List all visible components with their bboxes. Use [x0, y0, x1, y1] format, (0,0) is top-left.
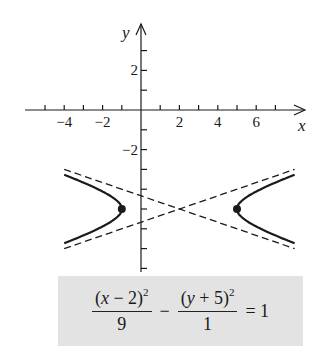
right-vertex: [233, 205, 241, 213]
fraction-y-numerator: (y + 5)2: [178, 288, 238, 312]
minus-sign: −: [160, 301, 170, 322]
hyperbola-left-branch: [64, 175, 122, 244]
x-axis-tick-labels: −4−2246: [56, 114, 260, 130]
x-tick-label: −4: [56, 114, 72, 130]
fraction-x-denominator: 9: [117, 312, 126, 335]
variable-x: x: [101, 288, 109, 308]
x-tick-label: 4: [214, 114, 222, 130]
x-tick-label: −2: [95, 114, 111, 130]
y-tick-label: −2: [122, 142, 138, 158]
x-axis-label: x: [297, 116, 306, 135]
fraction-x-numerator: (x − 2)2: [92, 288, 152, 312]
x-shift: − 2): [109, 288, 143, 308]
x-axis: −4−2246 x: [25, 105, 306, 135]
y-axis-label: y: [120, 23, 130, 42]
y-tick-label: 2: [131, 62, 139, 78]
x-tick-label: 2: [176, 114, 184, 130]
exponent: 2: [143, 286, 149, 298]
fraction-x-term: (x − 2)2 9: [92, 288, 152, 335]
fraction-y-denominator: 1: [203, 312, 212, 335]
x-tick-label: 6: [252, 114, 260, 130]
left-vertex: [118, 205, 126, 213]
y-axis: 2−2 y: [120, 23, 147, 272]
asymptotes: [64, 169, 294, 248]
hyperbola-right-branch: [237, 175, 295, 244]
y-shift: + 5): [195, 288, 229, 308]
y-axis-ticks: [141, 51, 147, 269]
x-axis-ticks: [45, 105, 275, 110]
fraction-y-term: (y + 5)2 1: [178, 288, 238, 335]
equation-box: (x − 2)2 9 − (y + 5)2 1 = 1: [58, 276, 303, 346]
equals-one: = 1: [245, 301, 269, 322]
variable-y: y: [187, 288, 195, 308]
exponent: 2: [229, 286, 235, 298]
